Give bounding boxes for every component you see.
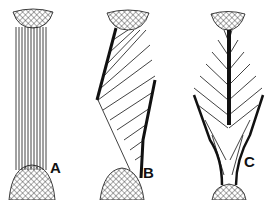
- panel-c: [194, 12, 263, 201]
- top-bone-a: [13, 9, 53, 28]
- tendon-c-left: [194, 95, 222, 185]
- muscle-fiber-diagram: A B C: [0, 0, 268, 200]
- fibers-b: [98, 30, 155, 160]
- fibers-a: [16, 27, 46, 170]
- top-bone-b: [107, 10, 149, 30]
- panel-label-b: B: [143, 165, 154, 180]
- top-bone-c: [211, 12, 245, 31]
- diagram-drawing: [0, 0, 268, 200]
- panel-a: [9, 9, 55, 200]
- bottom-bone-c: [212, 184, 246, 200]
- panel-label-a: A: [50, 160, 61, 175]
- bottom-bone-a: [9, 165, 55, 200]
- panel-label-c: C: [244, 154, 255, 169]
- bottom-bone-b: [100, 168, 144, 200]
